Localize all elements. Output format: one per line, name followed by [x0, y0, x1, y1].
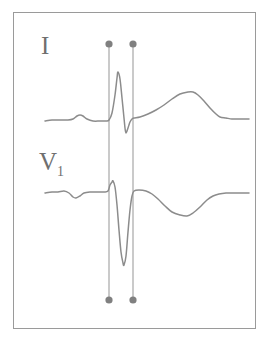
caliper-dot-bottom-left[interactable] — [105, 296, 112, 303]
lead-label-i: I — [41, 33, 49, 58]
lead-label-v1-base: V — [39, 148, 57, 175]
ecg-trace-v1 — [45, 181, 249, 266]
caliper-dot-bottom-right[interactable] — [129, 296, 136, 303]
lead-label-v1: V1 — [39, 149, 64, 179]
caliper-dot-top-left[interactable] — [105, 40, 112, 47]
ecg-figure: I V1 — [0, 0, 270, 344]
lead-label-v1-subscript: 1 — [57, 164, 64, 179]
caliper-dot-group[interactable] — [105, 40, 136, 303]
caliper-dot-top-right[interactable] — [129, 40, 136, 47]
ecg-trace-group — [45, 72, 249, 266]
ecg-trace-i — [45, 72, 249, 133]
